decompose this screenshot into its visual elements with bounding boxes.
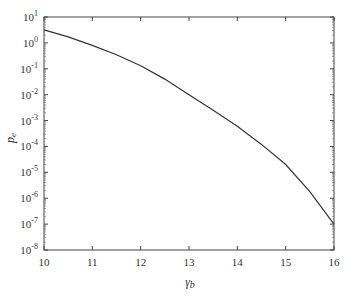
line-chart: 10-810-710-610-510-410-310-210-1100101 1… <box>0 0 350 298</box>
y-tick-label: 10-2 <box>20 87 38 101</box>
x-tick-label: 10 <box>39 256 51 268</box>
y-axis-ticks: 10-810-710-610-510-410-310-210-1100101 <box>20 9 334 256</box>
y-tick-label: 10-3 <box>20 113 38 127</box>
x-tick-label: 12 <box>135 256 146 268</box>
y-tick-label: 10-7 <box>20 216 38 230</box>
x-tick-label: 13 <box>184 256 196 268</box>
y-tick-label: 10-5 <box>20 164 38 178</box>
y-axis-label: pe <box>3 133 18 144</box>
y-tick-label: 10-8 <box>20 242 38 256</box>
y-tick-label: 10-6 <box>20 190 38 204</box>
y-tick-label: 101 <box>23 9 38 23</box>
x-tick-label: 11 <box>87 256 98 268</box>
x-tick-label: 15 <box>280 256 292 268</box>
x-axis-ticks: 10111213141516 <box>39 17 341 268</box>
x-tick-label: 16 <box>329 256 341 268</box>
x-axis-label: γb <box>185 275 195 290</box>
x-tick-label: 14 <box>232 256 244 268</box>
curve-line <box>44 30 334 224</box>
y-tick-label: 10-1 <box>20 61 38 75</box>
plot-area <box>44 17 334 250</box>
y-tick-label: 10-4 <box>20 138 38 152</box>
data-series <box>44 30 334 224</box>
y-tick-label: 100 <box>23 35 38 49</box>
